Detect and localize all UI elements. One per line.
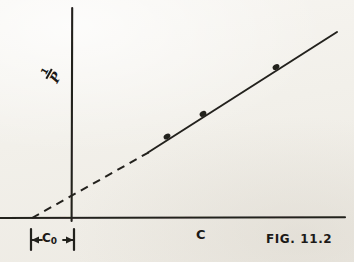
x-axis-line — [0, 217, 345, 218]
y-axis-label-denominator: P — [48, 70, 63, 85]
plot-area — [0, 0, 354, 262]
x-axis-label: C — [196, 228, 206, 241]
intercept-bracket-label: C0 — [42, 232, 57, 246]
y-axis-label: 1 P — [34, 54, 68, 96]
intercept-bracket-label-base: C — [42, 231, 51, 245]
y-axis-line — [72, 8, 73, 221]
dimension-bracket-left-arrow-head — [32, 236, 40, 243]
figure-caption: FIG. 11.2 — [266, 233, 332, 245]
intercept-bracket-label-subscript: 0 — [51, 236, 57, 246]
dimension-bracket-right-arrow-head — [66, 236, 74, 243]
figure-container: 1 P C C0 FIG. 11.2 — [0, 0, 354, 262]
extrapolation-dashed-line — [32, 151, 152, 219]
best-fit-line — [148, 32, 337, 153]
